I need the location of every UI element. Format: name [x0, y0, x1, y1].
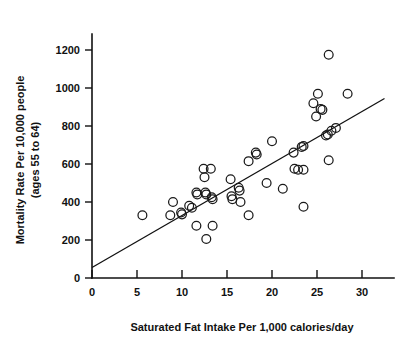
- x-axis-ticks: 051015202530: [89, 270, 368, 298]
- y-axis-title-line2: (ages 55 to 64): [29, 121, 41, 198]
- data-point: [244, 211, 253, 220]
- data-point: [208, 221, 217, 230]
- data-point: [236, 198, 245, 207]
- y-tick-label: 1200: [56, 44, 80, 56]
- y-axis-ticks: 020040060080010001200: [56, 44, 92, 284]
- data-point: [268, 137, 277, 146]
- x-axis-title: Saturated Fat Intake Per 1,000 calories/…: [130, 321, 354, 333]
- x-tick-label: 25: [311, 286, 323, 298]
- data-point: [244, 157, 253, 166]
- data-point: [166, 211, 175, 220]
- y-tick-label: 0: [74, 272, 80, 284]
- data-point: [226, 175, 235, 184]
- data-point: [343, 89, 352, 98]
- x-tick-label: 15: [221, 286, 233, 298]
- data-point-group: [138, 50, 352, 243]
- x-tick-label: 0: [89, 286, 95, 298]
- data-point: [262, 179, 271, 188]
- x-tick-label: 20: [266, 286, 278, 298]
- y-axis-title: Mortality Rate Per 10,000 people (ages 5…: [14, 76, 41, 245]
- x-tick-label: 10: [176, 286, 188, 298]
- data-point: [202, 235, 211, 244]
- data-point: [278, 184, 287, 193]
- data-point: [299, 165, 308, 174]
- data-point: [138, 211, 147, 220]
- x-tick-label: 30: [356, 286, 368, 298]
- data-point: [169, 198, 178, 207]
- data-point: [299, 202, 308, 211]
- x-tick-label: 5: [134, 286, 140, 298]
- y-axis-title-line1: Mortality Rate Per 10,000 people: [14, 76, 26, 245]
- data-point: [324, 156, 333, 165]
- data-point: [324, 50, 333, 59]
- scatter-plot-figure: Mortality Rate Per 10,000 people (ages 5…: [0, 0, 417, 345]
- y-tick-label: 600: [62, 158, 80, 170]
- chart-svg: Mortality Rate Per 10,000 people (ages 5…: [0, 0, 417, 345]
- data-point: [192, 221, 201, 230]
- data-point: [200, 173, 209, 182]
- y-tick-label: 800: [62, 120, 80, 132]
- y-tick-label: 200: [62, 234, 80, 246]
- y-tick-label: 1000: [56, 82, 80, 94]
- y-tick-label: 400: [62, 196, 80, 208]
- data-point: [314, 89, 323, 98]
